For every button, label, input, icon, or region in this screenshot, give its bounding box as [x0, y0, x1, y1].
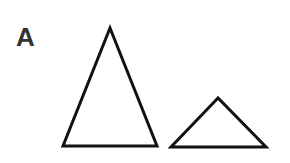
diagram-canvas: A — [0, 0, 290, 163]
triangles-figure — [0, 0, 290, 163]
large-triangle — [63, 28, 157, 146]
small-triangle — [171, 98, 266, 147]
